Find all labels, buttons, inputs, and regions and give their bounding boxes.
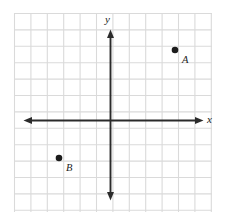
- coordinate-plane-canvas: [0, 0, 228, 223]
- x-axis-arrow-left: [24, 117, 33, 124]
- grid-lines: [14, 13, 212, 212]
- x-axis-arrow-right: [195, 117, 204, 124]
- x-axis: [24, 117, 204, 124]
- axis-label-y: y: [105, 14, 110, 25]
- axis-label-x: x: [207, 114, 212, 125]
- point-label-b: B: [66, 163, 72, 174]
- data-point-b[interactable]: [56, 155, 63, 162]
- coordinate-plane-figure: y x A B: [0, 0, 228, 223]
- point-label-a: A: [182, 55, 188, 66]
- data-point-a[interactable]: [172, 47, 179, 54]
